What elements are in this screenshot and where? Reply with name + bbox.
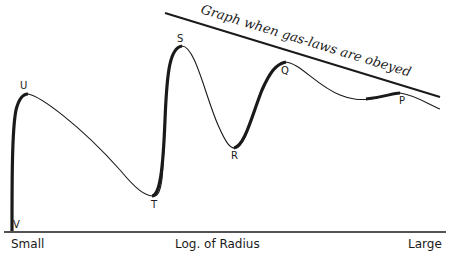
thick-segment-p xyxy=(366,93,400,99)
point-label-v: V xyxy=(13,219,20,230)
axis-label-large: Large xyxy=(408,237,442,251)
axis-label-small: Small xyxy=(11,237,44,251)
point-label-t: T xyxy=(150,199,158,210)
gas-law-line xyxy=(165,13,440,97)
gas-law-label: Graph when gas-laws are obeyed xyxy=(199,2,413,80)
thick-segment-ts xyxy=(152,46,182,196)
radius-curve xyxy=(12,46,440,231)
thick-segment-rq xyxy=(234,62,286,148)
axis-label-center: Log. of Radius xyxy=(175,237,260,251)
point-label-s: S xyxy=(177,33,183,44)
radius-graph-diagram: Graph when gas-laws are obeyed V U T S R… xyxy=(0,0,450,256)
point-label-q: Q xyxy=(281,65,289,76)
point-label-r: R xyxy=(231,150,238,161)
point-label-p: P xyxy=(399,95,405,106)
thick-segment-vu xyxy=(12,94,28,231)
point-label-u: U xyxy=(20,80,27,91)
